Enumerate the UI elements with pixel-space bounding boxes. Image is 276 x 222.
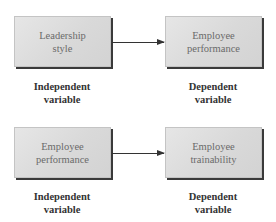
label-line: variable xyxy=(7,203,117,216)
box-text-line: Leadership xyxy=(39,29,86,42)
independent-variable-label: Independent variable xyxy=(7,190,117,216)
box-text-line: trainability xyxy=(190,153,236,166)
label-line: Dependent xyxy=(158,80,268,93)
independent-variable-label: Independent variable xyxy=(7,80,117,106)
arrow-right-icon xyxy=(112,153,164,154)
dependent-variable-box-employee-trainability: Employee trainability xyxy=(165,127,262,178)
box-text-line: performance xyxy=(187,42,240,55)
box-text-line: Employee xyxy=(192,140,235,153)
independent-variable-box-leadership-style: Leadership style xyxy=(14,16,111,67)
label-line: Independent xyxy=(7,190,117,203)
box-text-line: style xyxy=(53,42,73,55)
label-line: variable xyxy=(7,93,117,106)
box-text-line: Employee xyxy=(192,29,235,42)
dependent-variable-label: Dependent variable xyxy=(158,80,268,106)
arrow-right-icon xyxy=(112,42,164,43)
label-line: variable xyxy=(158,203,268,216)
dependent-variable-label: Dependent variable xyxy=(158,190,268,216)
box-text-line: Employee xyxy=(41,140,84,153)
box-text-line: performance xyxy=(36,153,89,166)
label-line: Independent xyxy=(7,80,117,93)
independent-variable-box-employee-performance: Employee performance xyxy=(14,127,111,178)
label-line: Dependent xyxy=(158,190,268,203)
label-line: variable xyxy=(158,93,268,106)
dependent-variable-box-employee-performance: Employee performance xyxy=(165,16,262,67)
